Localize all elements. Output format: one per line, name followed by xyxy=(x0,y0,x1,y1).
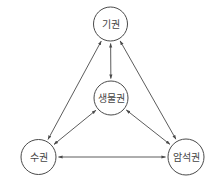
arrow-biosphere-hydrosphere xyxy=(54,110,96,144)
node-label: 수권 xyxy=(30,152,48,163)
node-label: 생물권 xyxy=(98,93,125,104)
node-hydrosphere: 수권 xyxy=(21,140,56,175)
node-label: 기권 xyxy=(102,19,120,30)
node-atmosphere: 기권 xyxy=(94,7,128,41)
nodes: 기권생물권수권암석권 xyxy=(21,7,204,175)
node-geosphere: 암석권 xyxy=(168,139,204,175)
node-label: 암석권 xyxy=(173,152,200,163)
earth-systems-diagram: 기권생물권수권암석권 xyxy=(0,0,214,186)
arrow-atmosphere-hydrosphere xyxy=(48,41,101,139)
arrow-atmosphere-geosphere xyxy=(120,41,176,139)
node-biosphere: 생물권 xyxy=(94,81,128,115)
arrow-biosphere-geosphere xyxy=(126,110,170,144)
